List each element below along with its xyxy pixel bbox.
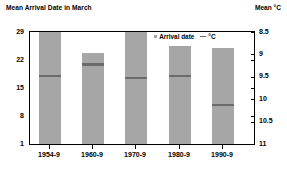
y-axis-left-tick-label: 22 [16,56,24,63]
secondary-axis-title: Mean °C [255,4,281,11]
temp-marker-1970-9 [125,77,147,79]
chart-figure: Mean Arrival Date in March Mean °C 29 22… [0,0,287,170]
x-axis-tick-label: 1960-9 [81,151,103,159]
x-axis: 1954-9 1960-9 1970-9 1980-9 1990-9 [29,145,255,167]
y-axis-right-tick-mark [251,32,255,33]
x-axis-tick-label: 1954-9 [38,151,60,159]
y-axis-left-tick-label: 1 [20,140,24,147]
x-axis-tick-label: 1970-9 [124,151,146,159]
y-axis-right-tick-mark [251,77,255,78]
bar-swatch-icon [154,35,157,38]
y-axis-left-tick-mark [251,60,255,61]
y-axis-left-tick-label: 15 [16,84,24,91]
legend-label-celsius: °C [208,33,215,40]
bar-1990-9 [212,48,234,145]
temp-marker-1954-9 [39,75,61,77]
y-axis-right-tick-label: 11 [259,140,266,147]
y-axis-left-tick-label: 8 [20,112,24,119]
y-axis-right-tick-label: 9.5 [259,72,269,79]
temp-marker-1980-9 [169,75,191,77]
y-axis-left-tick-mark [251,88,255,89]
legend-entry-arrival-date: Arrival date [154,33,194,40]
y-axis-right-tick-mark [251,122,255,123]
y-axis-left: 29 22 15 8 1 [0,31,24,145]
y-axis-right-tick-label: 9 [259,50,263,57]
page-title: Mean Arrival Date in March [6,4,92,11]
x-axis-tick-label: 1990-9 [211,151,233,159]
x-axis-tick-mark [92,145,93,149]
y-axis-right-tick-mark [251,54,255,55]
legend-entry-celsius: °C [200,33,215,40]
y-axis-right: 8.5 9 9.5 10 10.5 11 [259,31,285,145]
bar-1980-9 [169,46,191,145]
legend-label-arrival-date: Arrival date [159,33,194,40]
x-axis-tick-mark [135,145,136,149]
y-axis-right-tick-mark [251,99,255,100]
plot-area [29,31,255,145]
y-axis-left-tick-label: 29 [16,28,24,35]
x-axis-tick-mark [179,145,180,149]
y-axis-right-tick-label: 8.5 [259,28,269,35]
y-axis-left-tick-mark [251,116,255,117]
temp-marker-1990-9 [212,104,234,106]
plot-inner [30,32,254,144]
x-axis-tick-mark [49,145,50,149]
line-swatch-icon [200,36,206,38]
x-axis-tick-label: 1980-9 [168,151,190,159]
bar-1954-9 [39,32,61,144]
temp-marker-1960-9 [82,63,104,65]
y-axis-right-tick-label: 10.5 [259,117,273,124]
x-axis-tick-mark [222,145,223,149]
y-axis-right-tick-label: 10 [259,95,267,102]
legend: Arrival date °C [154,33,216,40]
bar-1970-9 [125,32,147,144]
bar-1960-9 [82,53,104,144]
